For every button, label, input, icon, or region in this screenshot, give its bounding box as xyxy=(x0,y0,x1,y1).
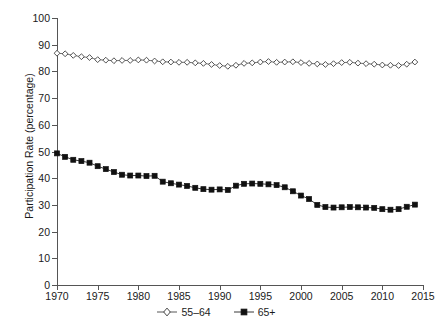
data-point xyxy=(233,62,239,68)
data-point xyxy=(217,187,222,192)
series-55-64 xyxy=(54,50,418,69)
legend-item-65-plus[interactable]: 65+ xyxy=(233,306,276,318)
data-point xyxy=(339,205,344,210)
data-point xyxy=(144,174,149,179)
data-point xyxy=(119,58,125,64)
data-point xyxy=(168,59,174,65)
data-point xyxy=(404,204,409,209)
data-point xyxy=(282,185,287,190)
data-point xyxy=(323,205,328,210)
data-point xyxy=(209,62,215,68)
data-point xyxy=(396,207,401,212)
data-point xyxy=(160,179,165,184)
data-point xyxy=(266,182,271,187)
data-point xyxy=(87,160,92,165)
data-point xyxy=(257,59,263,65)
data-point xyxy=(177,182,182,187)
data-point xyxy=(55,151,60,156)
data-point xyxy=(225,187,230,192)
data-point xyxy=(241,60,247,66)
data-point xyxy=(290,59,296,65)
data-point xyxy=(282,59,288,65)
data-point xyxy=(144,57,150,63)
data-point xyxy=(347,59,353,65)
data-point xyxy=(71,157,76,162)
data-point xyxy=(355,205,360,210)
data-point xyxy=(128,173,133,178)
data-point xyxy=(201,60,207,66)
data-point xyxy=(355,60,361,66)
series-65-plus xyxy=(55,151,418,212)
data-point xyxy=(103,167,108,172)
data-point xyxy=(111,170,116,175)
data-point xyxy=(331,61,337,67)
data-point xyxy=(372,205,377,210)
data-point xyxy=(379,62,385,68)
data-point xyxy=(266,59,272,65)
data-point xyxy=(412,202,417,207)
data-point xyxy=(388,62,394,68)
data-point xyxy=(120,172,125,177)
data-point xyxy=(347,205,352,210)
data-point xyxy=(168,181,173,186)
data-point xyxy=(176,59,182,65)
data-point xyxy=(209,187,214,192)
data-point xyxy=(127,58,133,64)
data-point xyxy=(79,159,84,164)
series-line-1 xyxy=(57,153,415,209)
data-point xyxy=(323,62,329,68)
data-point xyxy=(135,57,141,63)
data-point xyxy=(242,181,247,186)
data-point xyxy=(315,202,320,207)
data-point xyxy=(396,63,402,69)
data-point xyxy=(307,197,312,202)
data-point xyxy=(331,205,336,210)
data-point xyxy=(160,59,166,65)
data-point xyxy=(274,183,279,188)
data-point xyxy=(185,183,190,188)
data-point xyxy=(364,205,369,210)
data-point xyxy=(233,183,238,188)
data-point xyxy=(298,60,304,66)
data-point xyxy=(152,173,157,178)
data-point xyxy=(225,63,231,69)
data-point xyxy=(290,189,295,194)
data-point xyxy=(184,59,190,65)
open-diamond-marker-icon xyxy=(156,306,178,318)
data-point xyxy=(258,181,263,186)
chart-legend: 55–64 65+ xyxy=(0,306,432,318)
data-point xyxy=(63,154,68,159)
legend-item-55-64[interactable]: 55–64 xyxy=(156,306,210,318)
data-point xyxy=(306,60,312,66)
data-point xyxy=(299,193,304,198)
data-point xyxy=(70,52,76,58)
data-point xyxy=(314,61,320,67)
legend-label-65-plus: 65+ xyxy=(258,306,276,318)
data-point xyxy=(111,58,117,64)
data-point xyxy=(388,207,393,212)
legend-label-55-64: 55–64 xyxy=(181,306,210,318)
data-point xyxy=(136,173,141,178)
data-point xyxy=(152,58,158,64)
data-point xyxy=(87,55,93,61)
data-point xyxy=(103,57,109,63)
filled-square-marker-icon xyxy=(233,306,255,318)
data-point xyxy=(371,61,377,67)
data-point xyxy=(274,59,280,65)
data-point xyxy=(339,60,345,66)
data-point xyxy=(62,51,68,57)
data-point xyxy=(201,187,206,192)
data-point xyxy=(250,181,255,186)
data-point xyxy=(54,50,60,56)
data-point xyxy=(404,61,410,67)
data-point xyxy=(95,57,101,63)
data-point xyxy=(249,60,255,66)
data-point xyxy=(217,63,223,69)
data-point xyxy=(380,207,385,212)
data-point xyxy=(412,59,418,65)
data-point xyxy=(193,185,198,190)
data-point xyxy=(79,54,85,60)
data-point xyxy=(95,164,100,169)
